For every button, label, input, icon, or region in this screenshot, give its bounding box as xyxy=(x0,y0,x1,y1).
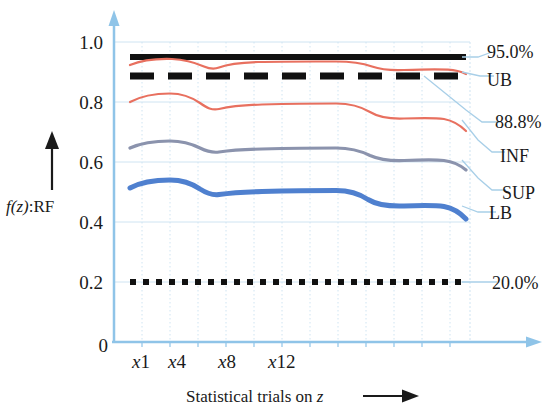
annotation-inf: INF xyxy=(500,146,529,166)
annotation-sup: SUP xyxy=(502,183,535,203)
x-tick-num-1: 1 xyxy=(140,351,150,372)
x-tick-label-1: x1 xyxy=(131,351,150,372)
chart-figure: 1.0 0.8 0.6 0.4 0.2 0 x1 x4 x8 x12 xyxy=(0,0,557,415)
y-axis-title-suffix: :RF xyxy=(29,197,55,216)
x-tick-label-2: x4 xyxy=(167,351,186,372)
annotation-ub: UB xyxy=(487,70,512,90)
x-tick-num-3: 8 xyxy=(226,351,236,372)
y-tick-label-5: 0.2 xyxy=(79,272,103,293)
annotation-88pct: 88.8% xyxy=(495,112,542,132)
x-tick-num-2: 4 xyxy=(176,351,186,372)
y-axis-title-math: f(z) xyxy=(6,197,29,216)
x-tick-num-4: 12 xyxy=(276,351,295,372)
y-tick-label-1: 1.0 xyxy=(79,32,103,53)
annotation-20pct: 20.0% xyxy=(492,273,539,293)
y-tick-label-3: 0.6 xyxy=(79,152,103,173)
y-axis-title: f(z):RF xyxy=(6,197,54,216)
y-tick-label-4: 0.4 xyxy=(79,212,103,233)
x-tick-label-4: x12 xyxy=(267,351,295,372)
chart-svg: 1.0 0.8 0.6 0.4 0.2 0 x1 x4 x8 x12 xyxy=(0,0,557,415)
y-tick-label-2: 0.8 xyxy=(79,92,103,113)
annotation-95pct: 95.0% xyxy=(487,42,534,62)
x-tick-label-3: x8 xyxy=(217,351,236,372)
annotation-lb: LB xyxy=(489,203,512,223)
x-axis-title-italic: z xyxy=(316,387,324,406)
x-axis-title: Statistical trials on z xyxy=(186,387,324,406)
y-axis-origin-label: 0 xyxy=(99,335,109,356)
x-axis-title-plain: Statistical trials on xyxy=(186,387,317,406)
